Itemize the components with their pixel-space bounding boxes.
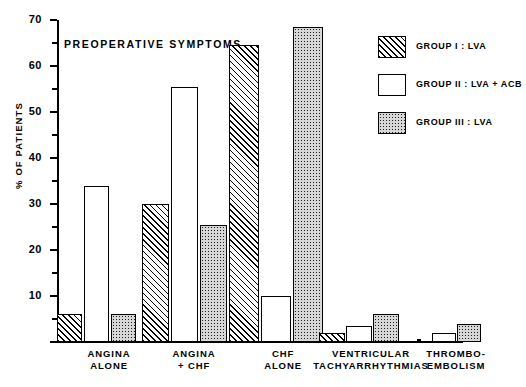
- bar-group3-cat5: [457, 324, 481, 342]
- bar-group2-cat1: [84, 186, 109, 342]
- bar-group2-cat5: [432, 333, 456, 342]
- bar-group1-cat5-zero: [417, 339, 421, 342]
- bar-group1-cat4: [319, 333, 345, 342]
- y-tick-label-60: 60: [16, 59, 42, 71]
- y-tick-major-20: [50, 249, 57, 251]
- legend-swatch-group2: [378, 74, 406, 96]
- bar-group2-cat2: [171, 87, 198, 342]
- y-tick-label-30: 30: [16, 197, 42, 209]
- bar-cluster-3: [229, 20, 323, 342]
- bar-cluster-5: [407, 20, 481, 342]
- bar-cluster-1: [57, 20, 136, 342]
- y-tick-label-50: 50: [16, 105, 42, 117]
- x-category-label-5: THROMBO-EMBOLISM: [381, 348, 526, 371]
- plot-area: [57, 20, 463, 342]
- legend-swatch-group3: [378, 112, 406, 134]
- y-tick-label-70: 70: [16, 13, 42, 25]
- y-tick-major-60: [50, 65, 57, 67]
- bar-group1-cat3: [229, 45, 259, 342]
- bar-cluster-2: [142, 20, 227, 342]
- y-tick-label-20: 20: [16, 243, 42, 255]
- bar-group3-cat4: [373, 314, 399, 342]
- y-tick-major-50: [50, 111, 57, 113]
- legend-label-group1: GROUP I : LVA: [416, 41, 486, 51]
- y-tick-major-30: [50, 203, 57, 205]
- legend-swatch-group1: [378, 36, 406, 58]
- legend-label-group2: GROUP II : LVA + ACB: [416, 79, 522, 89]
- bar-group1-cat2: [142, 204, 169, 342]
- y-tick-major-0: [50, 341, 57, 343]
- bar-group2-cat3: [261, 296, 291, 342]
- x-category-label-5-line1: THROMBO-: [381, 348, 526, 360]
- y-tick-label-40: 40: [16, 151, 42, 163]
- y-tick-label-10: 10: [16, 289, 42, 301]
- x-category-label-5-line2: EMBOLISM: [381, 360, 526, 372]
- bar-group3-cat2: [200, 225, 227, 342]
- bar-group2-cat4: [346, 326, 372, 342]
- y-tick-major-10: [50, 295, 57, 297]
- y-tick-major-40: [50, 157, 57, 159]
- bar-group1-cat1: [57, 314, 82, 342]
- legend-label-group3: GROUP III : LVA: [416, 117, 493, 127]
- bar-cluster-4: [319, 20, 399, 342]
- bar-group3-cat1: [111, 314, 136, 342]
- y-axis-title: % OF PATIENTS: [13, 86, 24, 206]
- y-tick-major-70: [50, 19, 57, 21]
